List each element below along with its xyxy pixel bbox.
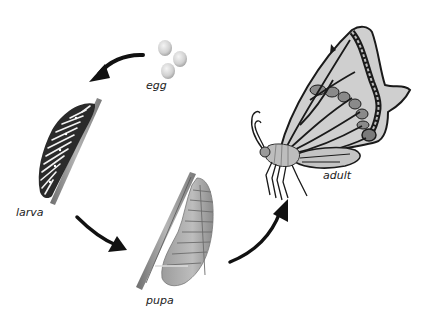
pupa-label: pupa bbox=[146, 295, 174, 306]
pupa-illustration bbox=[136, 172, 213, 290]
adult-label: adult bbox=[323, 170, 351, 181]
arrow-egg-to-larva bbox=[89, 55, 143, 82]
larva-label: larva bbox=[16, 207, 44, 218]
diagram-artwork bbox=[0, 0, 425, 330]
egg-label: egg bbox=[146, 80, 167, 91]
egg-illustration bbox=[158, 40, 187, 79]
larva-illustration bbox=[39, 98, 102, 205]
arrow-larva-to-pupa bbox=[77, 217, 127, 252]
life-cycle-diagram: egg larva pupa adult bbox=[0, 0, 425, 330]
arrow-pupa-to-adult bbox=[230, 199, 288, 262]
